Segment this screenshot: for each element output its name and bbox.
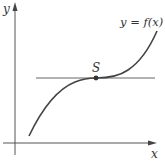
x-axis: [3, 141, 157, 146]
y-axis-arrow-icon: [13, 2, 18, 11]
point-s-label: S: [92, 61, 100, 75]
curve-label: y = f(x): [119, 15, 163, 29]
x-axis-label: x: [151, 147, 158, 161]
stationary-point-s: [94, 76, 99, 81]
y-axis: [13, 2, 18, 155]
y-axis-label: y: [2, 2, 10, 16]
function-graph-diagram: y x S y = f(x): [0, 0, 165, 162]
function-curve: [29, 31, 157, 136]
x-axis-arrow-icon: [148, 141, 157, 146]
